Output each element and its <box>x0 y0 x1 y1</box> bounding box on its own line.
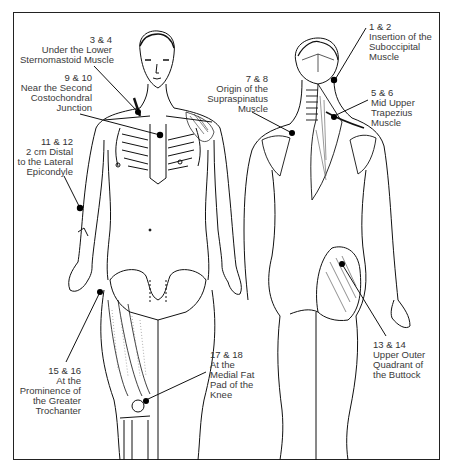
label-11-12: 11 & 12 2 cm Distal to the Lateral Epico… <box>14 137 73 177</box>
point-15-16 <box>97 289 103 295</box>
label-9-10: 9 & 10 Near the Second Costochondral Jun… <box>16 73 92 113</box>
point-11-12 <box>77 205 83 211</box>
point-3-4 <box>135 109 141 115</box>
label-17-18: 17 & 18 At the Medial Fat Pad of the Kne… <box>210 350 280 400</box>
label-3-4: 3 & 4 Under the Lower Sternomastoid Musc… <box>20 35 112 65</box>
point-5-6 <box>331 114 337 120</box>
point-17-18 <box>143 398 149 404</box>
label-7-8: 7 & 8 Origin of the Supraspinatus Muscle <box>198 74 268 114</box>
point-9-10 <box>157 132 163 138</box>
point-1-2 <box>331 77 337 83</box>
label-1-2: 1 & 2 Insertion of the Suboccipital Musc… <box>369 22 449 62</box>
point-13-14 <box>339 261 345 267</box>
label-15-16: 15 & 16 At the Prominence of the Greater… <box>16 366 81 416</box>
point-7-8 <box>289 130 295 136</box>
label-5-6: 5 & 6 Mid Upper Trapezius Muscle <box>371 88 441 128</box>
label-13-14: 13 & 14 Upper Outer Quadrant of the Butt… <box>373 340 443 380</box>
